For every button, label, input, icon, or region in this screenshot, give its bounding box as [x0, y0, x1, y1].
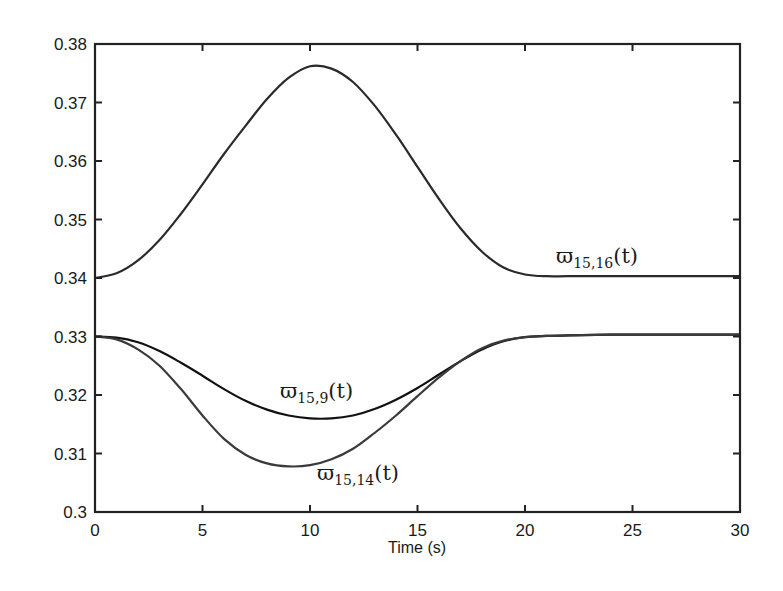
- y-tick-label: 0.3: [63, 503, 87, 522]
- plot-frame: [95, 44, 740, 512]
- curve-label-15-14: ϖ15,14(t): [317, 461, 399, 488]
- axes: [95, 44, 740, 512]
- curve-15-9: [95, 335, 740, 419]
- x-axis-ticks: 051015202530: [90, 44, 749, 540]
- y-tick-label: 0.34: [54, 269, 87, 288]
- y-tick-label: 0.35: [54, 211, 87, 230]
- x-tick-label: 25: [623, 521, 642, 540]
- x-tick-label: 0: [90, 521, 99, 540]
- y-tick-label: 0.36: [54, 152, 87, 171]
- curve-label-15-9: ϖ15,9(t): [280, 379, 353, 406]
- y-tick-label: 0.32: [54, 386, 87, 405]
- x-tick-label: 30: [731, 521, 750, 540]
- y-tick-label: 0.33: [54, 328, 87, 347]
- x-tick-label: 5: [198, 521, 207, 540]
- curve-label-15-16: ϖ15,16(t): [556, 244, 638, 271]
- curve-15-16: [95, 66, 740, 278]
- y-axis-ticks: 0.30.310.320.330.340.350.360.370.38: [54, 35, 740, 522]
- x-tick-label: 10: [301, 521, 320, 540]
- curve-15-14: [95, 335, 740, 467]
- y-tick-label: 0.37: [54, 94, 87, 113]
- y-tick-label: 0.31: [54, 445, 87, 464]
- line-chart: 051015202530 0.30.310.320.330.340.350.36…: [0, 0, 783, 591]
- y-tick-label: 0.38: [54, 35, 87, 54]
- x-tick-label: 15: [408, 521, 427, 540]
- x-axis-label: Time (s): [388, 539, 446, 556]
- x-tick-label: 20: [516, 521, 535, 540]
- curves: [95, 66, 740, 467]
